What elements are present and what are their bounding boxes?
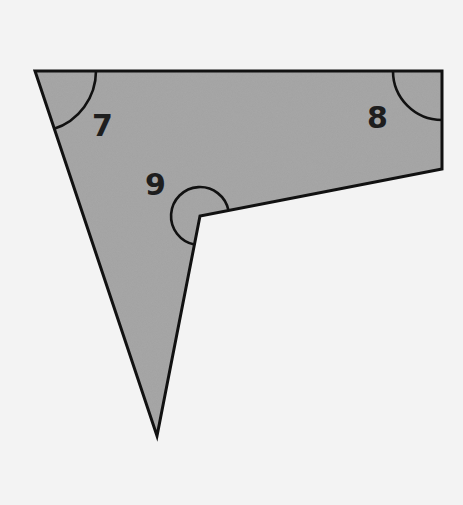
polygon-diagram: 7 8 9	[0, 0, 463, 505]
angle-label-8: 8	[367, 100, 388, 135]
angle-label-7: 7	[92, 108, 113, 143]
angle-label-9: 9	[145, 167, 166, 202]
